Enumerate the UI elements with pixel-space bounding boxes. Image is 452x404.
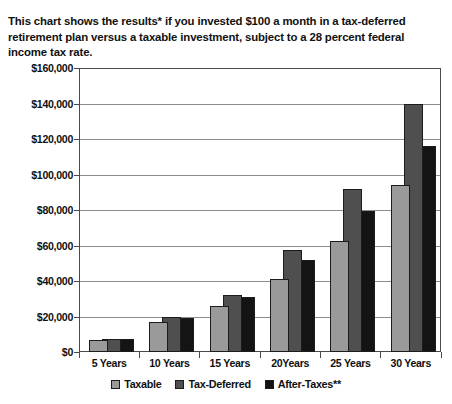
bar-taxable bbox=[149, 322, 168, 352]
bar-groups bbox=[79, 68, 441, 352]
bar-group bbox=[320, 68, 380, 352]
legend-label: Tax-Deferred bbox=[188, 378, 250, 390]
bar-taxable bbox=[270, 279, 289, 352]
legend-item: After-Taxes** bbox=[265, 378, 341, 390]
chart-legend: TaxableTax-DeferredAfter-Taxes** bbox=[0, 378, 452, 390]
x-axis-tick-label: 25 Years bbox=[320, 357, 380, 369]
x-axis-labels: 5 Years10 Years15 Years20Years25 Years30… bbox=[79, 357, 441, 369]
legend-item: Tax-Deferred bbox=[175, 378, 250, 390]
intro-paragraph: This chart shows the results* if you inv… bbox=[8, 14, 444, 60]
legend-label: After-Taxes** bbox=[278, 378, 341, 390]
bar-chart: $160,000$140,000$120,000$100,000$80,000$… bbox=[0, 56, 452, 404]
x-axis-tick-label: 30 Years bbox=[381, 357, 441, 369]
legend-label: Taxable bbox=[124, 378, 161, 390]
legend-item: Taxable bbox=[111, 378, 161, 390]
bottom-cutoff-text bbox=[0, 399, 452, 404]
x-axis-tick-label: 20Years bbox=[260, 357, 320, 369]
x-axis-tick-label: 15 Years bbox=[200, 357, 260, 369]
legend-swatch-icon bbox=[175, 380, 184, 389]
bar-group bbox=[79, 68, 139, 352]
x-axis-tick-label: 5 Years bbox=[79, 357, 139, 369]
y-axis-ticks bbox=[0, 68, 79, 352]
bar-taxable bbox=[330, 241, 349, 352]
bar-taxable bbox=[391, 185, 410, 352]
x-axis-tick-label: 10 Years bbox=[139, 357, 199, 369]
bar-group bbox=[260, 68, 320, 352]
legend-swatch-icon bbox=[111, 380, 120, 389]
bar-group bbox=[200, 68, 260, 352]
bar-group bbox=[381, 68, 441, 352]
bar-taxable bbox=[89, 340, 108, 352]
legend-swatch-icon bbox=[265, 380, 274, 389]
bar-taxable bbox=[210, 306, 229, 352]
bar-group bbox=[139, 68, 199, 352]
